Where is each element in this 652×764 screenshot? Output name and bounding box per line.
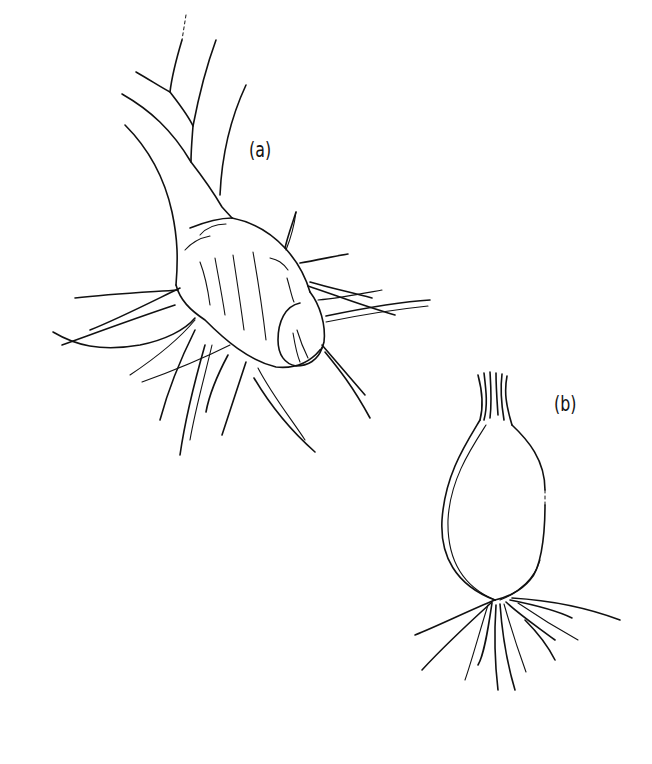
botanical-figure: (a) (b): [0, 0, 652, 764]
label-corm: (a): [249, 137, 271, 162]
label-bulb: (b): [554, 391, 576, 416]
corm-drawing: [53, 15, 430, 455]
illustration-canvas: [0, 0, 652, 764]
bulb-drawing: [415, 372, 620, 690]
